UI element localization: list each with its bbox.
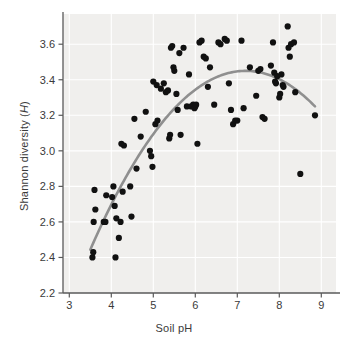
svg-text:9: 9 bbox=[318, 299, 324, 311]
svg-text:2.4: 2.4 bbox=[40, 251, 55, 263]
svg-text:8: 8 bbox=[276, 299, 282, 311]
y-axis-title-symbol: H bbox=[18, 105, 30, 113]
plot-background bbox=[63, 14, 336, 293]
svg-text:3.6: 3.6 bbox=[40, 38, 55, 50]
svg-text:5: 5 bbox=[150, 299, 156, 311]
svg-text:3.4: 3.4 bbox=[40, 74, 55, 86]
svg-text:6: 6 bbox=[192, 299, 198, 311]
svg-text:3.2: 3.2 bbox=[40, 109, 55, 121]
y-axis-title: Shannon diversity (H) bbox=[18, 76, 30, 236]
y-axis-title-prefix: Shannon diversity ( bbox=[18, 113, 30, 211]
svg-text:2.2: 2.2 bbox=[40, 287, 55, 299]
svg-text:4: 4 bbox=[108, 299, 114, 311]
x-axis-title: Soil pH bbox=[0, 322, 348, 334]
svg-text:3: 3 bbox=[66, 299, 72, 311]
plot-canvas: 34567892.22.42.62.83.03.23.43.6 bbox=[0, 0, 348, 347]
scatter-plot-figure: 34567892.22.42.62.83.03.23.43.6 Soil pH … bbox=[0, 0, 348, 347]
y-axis-title-suffix: ) bbox=[18, 101, 30, 105]
svg-text:2.8: 2.8 bbox=[40, 180, 55, 192]
svg-text:3.0: 3.0 bbox=[40, 145, 55, 157]
svg-text:7: 7 bbox=[234, 299, 240, 311]
svg-text:2.6: 2.6 bbox=[40, 216, 55, 228]
